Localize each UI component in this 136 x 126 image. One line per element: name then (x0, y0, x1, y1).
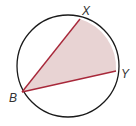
label-b: B (9, 91, 17, 105)
label-x: X (81, 4, 91, 18)
diagram-canvas: X Y B (0, 0, 136, 126)
label-y: Y (121, 67, 130, 81)
